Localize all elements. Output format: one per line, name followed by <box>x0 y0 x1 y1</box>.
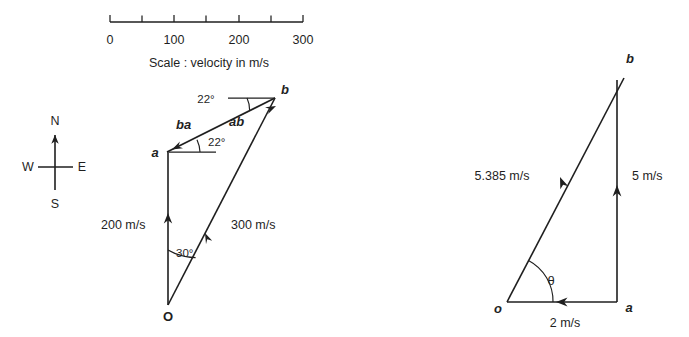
angle-label-theta: θ <box>547 273 554 288</box>
magnitude-label-ob-right: 5.385 m/s <box>475 169 530 183</box>
vector-name-ab: ab <box>229 114 244 129</box>
magnitude-label-ab-right: 5 m/s <box>632 169 663 183</box>
compass-label-west: W <box>22 160 34 174</box>
vector-diagram-figure: 0 100 200 300 Scale : velocity in m/s N … <box>0 0 689 337</box>
scale-label-300: 300 <box>293 33 314 47</box>
angle-arc-at-a <box>197 140 200 152</box>
vector-ob-arrowhead <box>205 233 212 244</box>
point-label-origin: O <box>163 309 173 324</box>
angle-arc-at-b <box>247 98 250 110</box>
angle-label-origin: 30° <box>176 247 193 259</box>
scale-label-200: 200 <box>229 33 250 47</box>
point-label-b: b <box>281 82 289 97</box>
compass-label-east: E <box>78 160 86 174</box>
vector-magnitude-oa: 200 m/s <box>101 218 145 232</box>
vector-name-ba: ba <box>176 117 191 132</box>
scale-caption: Scale : velocity in m/s <box>149 56 269 70</box>
compass-label-north: N <box>50 114 59 128</box>
point-label-b-right: b <box>626 51 634 66</box>
vector-magnitude-ob: 300 m/s <box>231 218 275 232</box>
point-label-origin-right: o <box>494 301 502 316</box>
point-label-a-right: a <box>625 300 632 315</box>
point-label-a: a <box>151 145 158 160</box>
scale-label-100: 100 <box>164 33 185 47</box>
scale-bar: 0 100 200 300 Scale : velocity in m/s <box>107 15 314 70</box>
angle-label-at-a: 22° <box>208 136 225 148</box>
velocity-diagram: O a b ba ab 200 m/s 300 m/s 30° 22° 22° <box>101 82 289 324</box>
relative-velocity-triangle: o a b 2 m/s 5 m/s 5.385 m/s θ <box>475 51 663 330</box>
magnitude-label-oa-right: 2 m/s <box>550 316 581 330</box>
compass-rose: N S W E <box>22 114 86 211</box>
angle-label-at-b: 22° <box>197 93 214 105</box>
scale-label-0: 0 <box>107 33 114 47</box>
vector-ob-5385ms <box>507 78 624 302</box>
compass-label-south: S <box>51 197 59 211</box>
